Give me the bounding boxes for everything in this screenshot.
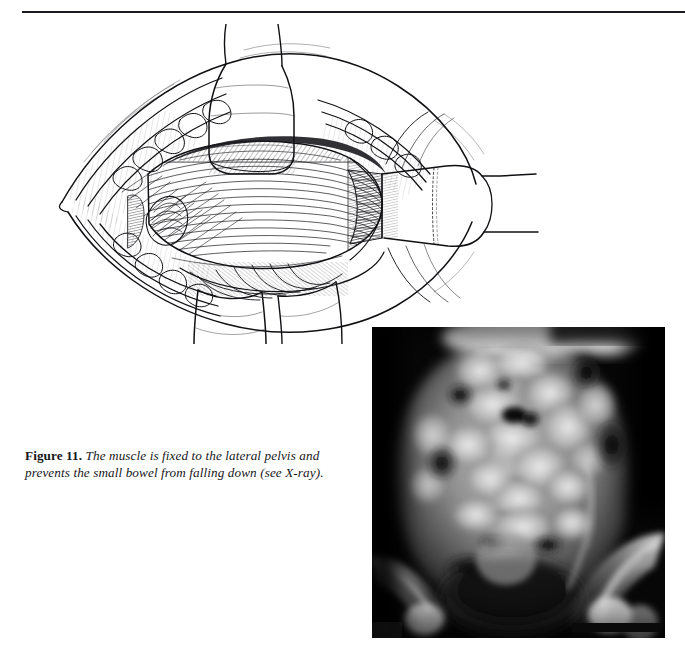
- figure-caption: Figure 11. The muscle is fixed to the la…: [25, 448, 345, 481]
- figure-page: Figure 11. The muscle is fixed to the la…: [0, 0, 685, 665]
- page-top-rule: [22, 11, 685, 13]
- figure-number-label: Figure 11.: [25, 448, 82, 463]
- xray-scale-bar: [572, 623, 662, 632]
- xray-image: [372, 327, 665, 638]
- surgical-illustration: [30, 24, 550, 344]
